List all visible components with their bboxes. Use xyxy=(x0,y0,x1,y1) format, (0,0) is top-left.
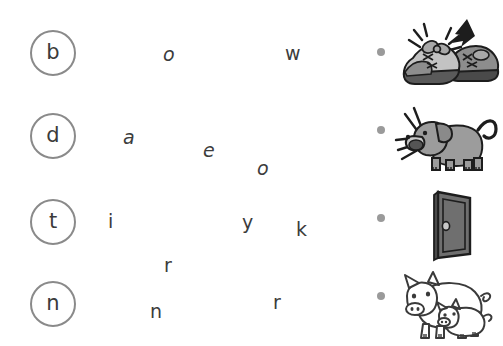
scatter-letter-n[interactable]: n xyxy=(150,302,162,321)
letter-circle-glyph: b xyxy=(46,42,59,63)
letter-circle-row-3[interactable]: t xyxy=(30,199,76,245)
letter-circle-row-4[interactable]: n xyxy=(30,281,76,327)
letter-circle-glyph: t xyxy=(49,211,57,232)
scatter-letter-i[interactable]: i xyxy=(108,212,113,231)
bullet-row-4[interactable] xyxy=(377,292,385,300)
picture-barking-dog xyxy=(392,96,502,176)
scatter-letter-a[interactable]: a xyxy=(123,128,135,147)
worksheet-page: b d t n o w a e o i y k r n r xyxy=(0,0,503,346)
scatter-letter-o-1[interactable]: o xyxy=(163,45,175,64)
scatter-letter-e[interactable]: e xyxy=(203,141,215,160)
bullet-row-2[interactable] xyxy=(377,126,385,134)
scatter-letter-o-2[interactable]: o xyxy=(257,159,269,178)
scatter-letter-r-2[interactable]: r xyxy=(273,293,281,312)
scatter-letter-k[interactable]: k xyxy=(296,220,307,239)
scatter-letter-w[interactable]: w xyxy=(285,44,301,63)
letter-circle-row-1[interactable]: b xyxy=(30,30,76,76)
picture-pigs xyxy=(395,270,503,342)
letter-circle-row-2[interactable]: d xyxy=(30,113,76,159)
letter-circle-glyph: n xyxy=(46,293,59,314)
bullet-row-1[interactable] xyxy=(377,48,385,56)
scatter-letter-y[interactable]: y xyxy=(242,213,253,232)
picture-door xyxy=(420,188,480,262)
picture-shoes-with-bow xyxy=(393,14,501,92)
letter-circle-glyph: d xyxy=(46,125,59,146)
bullet-row-3[interactable] xyxy=(377,214,385,222)
scatter-letter-r-1[interactable]: r xyxy=(164,256,172,275)
